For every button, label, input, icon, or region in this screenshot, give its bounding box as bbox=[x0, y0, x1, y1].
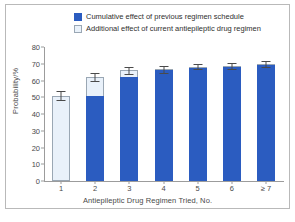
error-bar-cap-upper bbox=[91, 73, 100, 74]
bar-group[interactable] bbox=[52, 47, 70, 181]
bar-segment-additional[interactable] bbox=[52, 96, 70, 181]
error-bar-line bbox=[163, 66, 164, 73]
bar-stack[interactable] bbox=[223, 66, 241, 181]
bar-stack[interactable] bbox=[120, 70, 138, 181]
y-axis-tick-mark bbox=[41, 147, 44, 148]
y-axis-tick-mark bbox=[41, 164, 44, 165]
error-bar-cap-lower bbox=[159, 73, 168, 74]
bar-segment-cumulative[interactable] bbox=[86, 96, 104, 181]
error-bar-line bbox=[129, 67, 130, 74]
x-axis-tick-label: 2 bbox=[93, 184, 97, 193]
error-bar-cap-lower bbox=[227, 69, 236, 70]
bar-stack[interactable] bbox=[189, 67, 207, 181]
error-bar-cap-upper bbox=[227, 63, 236, 64]
bar-segment-cumulative[interactable] bbox=[189, 68, 207, 181]
bar-segment-cumulative[interactable] bbox=[223, 67, 241, 181]
legend: Cumulative effect of previous regimen sc… bbox=[74, 11, 289, 35]
bar-stack[interactable] bbox=[257, 64, 275, 181]
y-axis-tick-mark bbox=[41, 63, 44, 64]
error-bar-cap-lower bbox=[57, 100, 66, 101]
error-bar-cap-upper bbox=[193, 64, 202, 65]
y-axis-tick-mark bbox=[41, 181, 44, 182]
bar-stack[interactable] bbox=[52, 96, 70, 181]
x-axis-tick-label: 5 bbox=[196, 184, 200, 193]
y-axis-label: Probability/% bbox=[11, 68, 20, 114]
error-bar-cap-upper bbox=[125, 67, 134, 68]
legend-swatch-dark-icon bbox=[74, 13, 82, 21]
x-axis-tick-label: 3 bbox=[127, 184, 131, 193]
error-bar-cap-upper bbox=[261, 61, 270, 62]
error-bar-line bbox=[61, 91, 62, 99]
error-bar-line bbox=[95, 73, 96, 81]
legend-label-additional: Additional effect of current antiepilept… bbox=[86, 24, 261, 33]
x-axis-tick-label: 1 bbox=[59, 184, 63, 193]
bar-group[interactable] bbox=[86, 47, 104, 181]
figure-container: Cumulative effect of previous regimen sc… bbox=[0, 0, 295, 222]
error-bar-cap-upper bbox=[159, 66, 168, 67]
bar-stack[interactable] bbox=[155, 69, 173, 181]
error-bar-cap-upper bbox=[57, 91, 66, 92]
error-bar-cap-lower bbox=[91, 81, 100, 82]
legend-label-cumulative: Cumulative effect of previous regimen sc… bbox=[86, 12, 244, 21]
bar-stack[interactable] bbox=[86, 77, 104, 181]
bar-segment-cumulative[interactable] bbox=[155, 70, 173, 181]
plot-area: 01020304050607080 bbox=[44, 47, 283, 181]
error-bar-cap-lower bbox=[125, 74, 134, 75]
y-axis-tick-mark bbox=[41, 97, 44, 98]
x-axis-tick-label: 4 bbox=[161, 184, 165, 193]
error-bar-cap-lower bbox=[193, 69, 202, 70]
legend-swatch-light-icon bbox=[74, 25, 82, 33]
bar-group[interactable] bbox=[120, 47, 138, 181]
bar-group[interactable] bbox=[189, 47, 207, 181]
bar-group[interactable] bbox=[257, 47, 275, 181]
legend-item-additional: Additional effect of current antiepilept… bbox=[74, 23, 289, 34]
x-axis-tick-label: ≥ 7 bbox=[261, 184, 271, 193]
error-bar-cap-lower bbox=[261, 67, 270, 68]
bar-segment-cumulative[interactable] bbox=[120, 77, 138, 181]
bar-group[interactable] bbox=[155, 47, 173, 181]
x-axis-line bbox=[44, 181, 284, 182]
legend-item-cumulative: Cumulative effect of previous regimen sc… bbox=[74, 11, 289, 22]
y-axis-tick-mark bbox=[41, 114, 44, 115]
y-axis-tick-mark bbox=[41, 130, 44, 131]
bar-group[interactable] bbox=[223, 47, 241, 181]
y-axis-tick-mark bbox=[41, 47, 44, 48]
x-axis-tick-label: 6 bbox=[230, 184, 234, 193]
x-axis-label: Antiepileptic Drug Regimen Tried, No. bbox=[0, 196, 295, 205]
y-axis-tick-mark bbox=[41, 80, 44, 81]
bar-segment-cumulative[interactable] bbox=[257, 65, 275, 181]
